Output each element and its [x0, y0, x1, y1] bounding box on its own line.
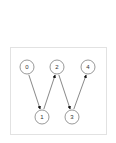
edge-0-1	[29, 75, 40, 109]
edge-2-3	[59, 75, 70, 109]
graph-node-0[interactable]: 0	[20, 60, 36, 76]
graph-node-1[interactable]: 1	[35, 110, 49, 124]
edge-3-4	[74, 75, 86, 109]
graph-node-4[interactable]: 4	[81, 60, 95, 74]
graph-node-3[interactable]: 3	[65, 110, 79, 124]
directed-graph: 0 1 2 3 4	[0, 0, 116, 143]
edge-1-2	[44, 75, 55, 109]
graph-node-2[interactable]: 2	[50, 60, 64, 74]
